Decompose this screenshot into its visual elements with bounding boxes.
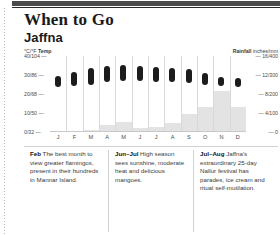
chart-baseline [50,131,246,132]
right-axis-tick: — 4/100 [258,110,278,116]
month-label: D [230,134,246,141]
rainfall-bar [230,107,246,132]
notes-divider [24,146,278,147]
chart-month-column [164,56,180,132]
chart-gridline [230,56,231,132]
notes-row: Feb The best month to view greater flami… [24,150,278,232]
chart-gridline [213,56,214,132]
left-axis-tick: 40/104 — [24,53,47,59]
chart-gridline [181,56,182,132]
temperature-range-bar [137,66,143,80]
rainfall-bar [181,114,197,132]
chart-month-column [148,56,164,132]
chart-gridline [115,56,116,132]
month-label: J [132,134,148,141]
chart-month-column [181,56,197,132]
chart-gridline [132,56,133,132]
temperature-range-bar [169,68,175,81]
temperature-range-bar [186,69,192,82]
right-axis-tick: — 12/300 [256,72,279,78]
chart-month-column [83,56,99,132]
chart-gridline [99,56,100,132]
left-axis-tick: 10/50 — [24,110,44,116]
temperature-range-bar [120,65,126,81]
month-label: F [66,134,82,141]
chart-month-column [132,56,148,132]
rainfall-bar [213,91,229,132]
page-subtitle: Jaffna [24,31,63,45]
note-lead: Feb [30,150,41,157]
temperature-range-bar [104,66,110,81]
chart-gridline [164,56,165,132]
month-label: J [148,134,164,141]
temperature-range-bar [55,76,61,87]
right-axis-tick: — 0 [268,129,278,135]
temperature-range-bar [153,67,159,81]
month-label: O [197,134,213,141]
right-axis-tick: — 8/200 [258,91,278,97]
temperature-range-bar [202,73,208,84]
month-label: A [164,134,180,141]
temperature-range-bar [71,72,77,86]
rainfall-bar [197,107,213,132]
temperature-range-bar [218,77,224,87]
left-axis-tick: 30/86 — [24,72,44,78]
chart-gridline [83,56,84,132]
top-rule-bar [12,1,280,6]
right-axis-tick: — 16/400 [256,53,279,59]
left-axis-tick: 0/32 — [24,129,41,135]
note-item: Jun–Jul High season sees sunshine, moder… [108,150,193,232]
page-title: When to Go [24,10,114,29]
chart-month-column [230,56,246,132]
chart-gridline [148,56,149,132]
page-edge-dotted-rule [4,8,5,235]
month-label: M [83,134,99,141]
chart-plot-area [50,56,246,132]
chart-month-column [197,56,213,132]
top-rule-thin [12,7,280,8]
chart-gridline [66,56,67,132]
note-item: Jul–Aug Jaffna's extraordinary 25-day Na… [193,150,278,232]
month-label: N [213,134,229,141]
note-text: The best month to view greater flamingos… [30,150,98,183]
note-item: Feb The best month to view greater flami… [24,150,108,232]
note-lead: Jun–Jul [115,150,138,157]
page-root: When to Go Jaffna °C/°F Temp Rainfall in… [0,0,280,235]
month-label: A [99,134,115,141]
chart-month-column [115,56,131,132]
month-label: M [115,134,131,141]
chart-month-column [213,56,229,132]
chart-month-column [50,56,66,132]
chart-gridline [197,56,198,132]
month-label: S [181,134,197,141]
temperature-range-bar [88,68,94,84]
temperature-range-bar [235,78,241,88]
right-axis-label: Rainfall [233,48,252,54]
chart-month-column [99,56,115,132]
note-lead: Jul–Aug [200,150,224,157]
month-label: J [50,134,66,141]
climate-chart: 40/104 —30/86 —20/68 —10/50 —0/32 — — 16… [24,56,278,132]
left-axis-tick: 20/68 — [24,91,44,97]
chart-month-column [66,56,82,132]
